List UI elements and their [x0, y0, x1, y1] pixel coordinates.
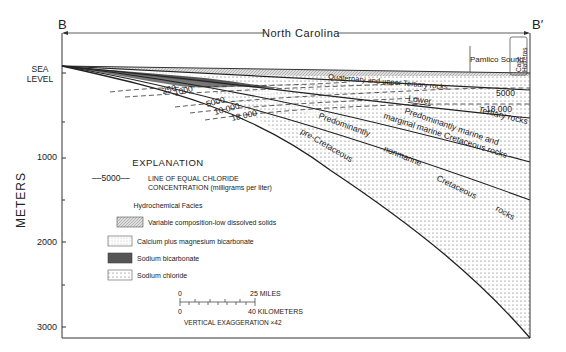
- scale-exaggeration: VERTICAL EXAGGERATION ×42: [184, 319, 282, 326]
- legend-line-label-2: CONCENTRATION (milligrams per liter): [148, 184, 272, 192]
- scale-km-zero: 0: [178, 308, 182, 315]
- legend-line-sample: ––5000––: [92, 173, 130, 183]
- section-start-label: B: [58, 17, 67, 32]
- unit-nonmarine-2: nonmarine: [382, 144, 423, 168]
- facies-calcium: Calcium plus magnesium bicarbonate: [137, 238, 254, 246]
- facies-sodium-bicarbonate: Sodium bicarbonate: [137, 255, 199, 262]
- unit-nonmarine-4: rocks: [494, 203, 517, 222]
- tick-1000: 1000: [37, 152, 57, 162]
- isochlor-5000-east: 5000: [496, 88, 515, 98]
- isochlor-1000: 1000: [173, 83, 194, 98]
- unit-nonmarine-3: Cretaceous: [435, 173, 478, 201]
- sea-level-label-1: SEA: [31, 64, 48, 74]
- facies-variable: Variable composition-low dissolved solid…: [148, 219, 277, 227]
- cape-label-2: Hatteras: [521, 47, 528, 72]
- section-end-label: B′: [532, 17, 544, 32]
- scale-miles-zero: 0: [178, 290, 182, 297]
- unit-pre-cretaceous: pre-Cretaceous: [299, 126, 355, 164]
- unit-nonmarine-1: Predominantly: [317, 110, 372, 138]
- state-label: North Carolina: [262, 27, 340, 39]
- isochlor-18000-east: 18,000: [486, 104, 512, 114]
- scale-km-end: 40 KILOMETERS: [248, 308, 303, 315]
- axis-title: METERS: [14, 172, 28, 228]
- facies-title: Hydrochemical Facies: [134, 202, 203, 210]
- legend-title: EXPLANATION: [132, 157, 203, 168]
- sea-level-label-2: LEVEL: [27, 74, 54, 84]
- unit-lower: Lower: [408, 93, 432, 106]
- legend-line-label-1: LINE OF EQUAL CHLORIDE: [148, 175, 239, 183]
- unit-quaternary: Quaternary and upper Tertiary rocks: [328, 72, 448, 91]
- facies-sodium-chloride: Sodium chloride: [137, 272, 187, 279]
- tick-2000: 2000: [37, 237, 57, 247]
- scale-miles-end: 25 MILES: [250, 290, 281, 297]
- tick-3000: 3000: [37, 322, 57, 332]
